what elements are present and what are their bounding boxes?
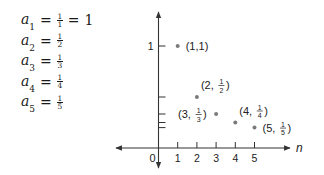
point-label-numerator: 1	[258, 104, 262, 111]
data-point	[214, 112, 218, 116]
data-point	[253, 126, 257, 130]
point-label-text: (4,	[239, 105, 252, 117]
y-tick-label: 1	[148, 40, 154, 52]
point-label: (2,12)	[201, 78, 230, 94]
point-label: (1,1)	[186, 40, 209, 52]
point-label-text: (2,	[201, 79, 214, 91]
point-label-numerator: 1	[219, 78, 223, 85]
x-tick-label: 5	[252, 152, 258, 164]
point-label-close: )	[264, 105, 268, 117]
x-axis-label: n	[296, 141, 303, 155]
point-label-close: )	[203, 108, 207, 120]
sequence-plot: n0 123451 (1,1)(2,12)(3,13)(4,14)(5,15)	[0, 0, 324, 175]
data-point	[233, 121, 237, 125]
point-label: (4,14)	[239, 104, 268, 120]
point-label-numerator: 1	[281, 121, 285, 128]
x-tick-label: 2	[194, 152, 200, 164]
origin-label: 0	[150, 152, 156, 164]
x-tick-label: 4	[232, 152, 238, 164]
x-tick-label: 3	[213, 152, 219, 164]
data-point	[195, 95, 199, 99]
point-label-denominator: 2	[219, 87, 223, 94]
data-point	[176, 44, 180, 48]
point-label-close: )	[226, 79, 230, 91]
point-label-close: )	[288, 122, 292, 134]
x-tick-label: 1	[175, 152, 181, 164]
point-label-numerator: 1	[197, 107, 201, 114]
point-label-text: (3,	[178, 108, 191, 120]
point-label-denominator: 4	[258, 112, 262, 119]
point-label: (5,15)	[263, 121, 292, 137]
point-label: (3,13)	[178, 107, 207, 123]
point-label-denominator: 5	[281, 129, 285, 136]
point-label-text: (1,1)	[186, 40, 209, 52]
point-label-denominator: 3	[197, 116, 201, 123]
point-label-text: (5,	[263, 122, 276, 134]
